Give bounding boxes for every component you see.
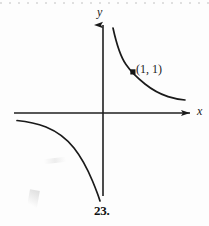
point-1-1-marker (130, 69, 135, 74)
y-axis-label: y (97, 6, 102, 18)
point-1-1-label: (1, 1) (136, 63, 162, 75)
hyperbola-branch-quadrant-III (17, 121, 100, 202)
graph-canvas (0, 0, 209, 226)
axes-group (14, 25, 190, 196)
x-axis-label: x (197, 105, 202, 117)
figure-container: y x (1, 1) 23. (0, 0, 209, 226)
point-marker-group (130, 69, 135, 74)
curve-group (17, 28, 185, 201)
figure-number-caption: 23. (94, 204, 110, 217)
